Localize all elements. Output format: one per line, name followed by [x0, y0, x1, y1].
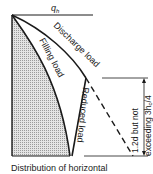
arrow-up-icon [142, 78, 146, 83]
reduced-load-label: Reduced load [75, 87, 91, 143]
figure-caption: Distribution of horizontal [11, 163, 108, 173]
dimension-text-line1: 1.2d but not [130, 107, 140, 153]
qh-label: qh [51, 3, 60, 14]
discharge-load-dashed [86, 78, 133, 156]
load-distribution-diagram: qh Discharge load Filling load Reduced l… [0, 0, 153, 174]
dimension-text-line2: exceeding 3hc/4 [143, 95, 153, 156]
